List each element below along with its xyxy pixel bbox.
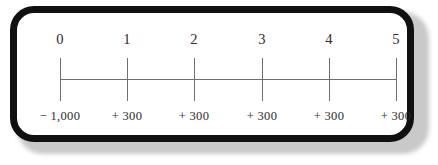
period-label: 3: [242, 30, 282, 48]
axis-tick: [329, 58, 330, 101]
axis-tick: [262, 58, 263, 101]
number-line-plot-area: 0− 1,0001+ 3002+ 3003+ 3004+ 3005+ 300: [0, 0, 438, 165]
period-label: 4: [309, 30, 349, 48]
axis-tick: [127, 58, 128, 101]
period-label: 0: [40, 30, 80, 48]
period-label: 5: [376, 30, 416, 48]
axis-tick: [60, 58, 61, 101]
period-label: 1: [107, 30, 147, 48]
timeline-figure: 0− 1,0001+ 3002+ 3003+ 3004+ 3005+ 300: [0, 0, 438, 165]
axis-tick: [396, 58, 397, 101]
axis-line: [60, 79, 396, 80]
cash-flow-label: + 300: [351, 108, 438, 124]
axis-tick: [194, 58, 195, 101]
period-label: 2: [174, 30, 214, 48]
